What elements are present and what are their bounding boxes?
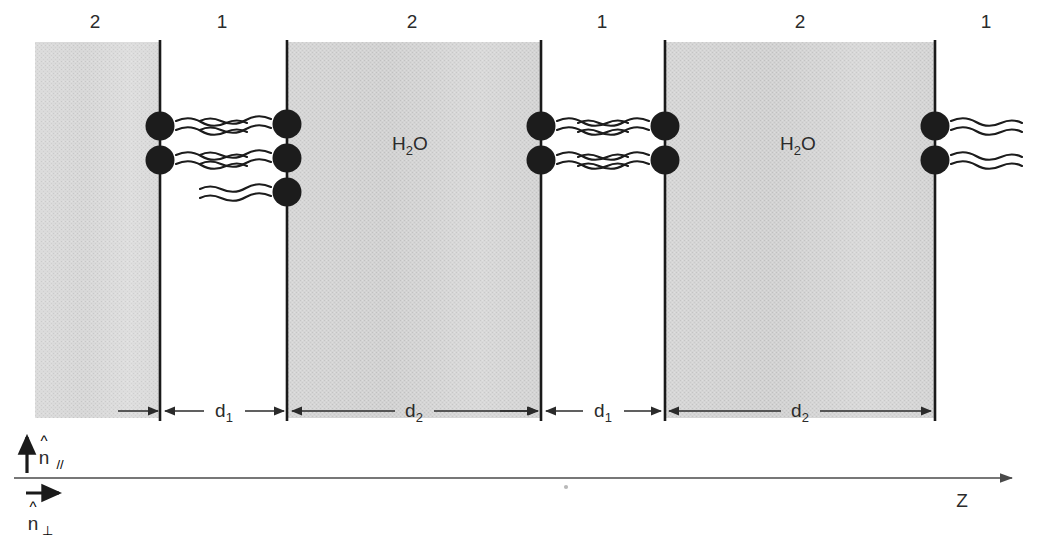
lipid-head-icon [527, 112, 556, 141]
lipid-molecule [146, 112, 248, 141]
lipid-molecule [146, 146, 248, 175]
slab-medium-2-water-second-shade [665, 42, 936, 418]
z-axis-label: Z [956, 490, 968, 511]
z-axis-group: Z [14, 478, 1012, 511]
print-speck [564, 485, 568, 489]
lipid-tail-icon [200, 184, 271, 192]
n-parallel-label: n [39, 447, 50, 468]
region-label-1-b: 1 [597, 11, 608, 32]
slab-medium-2-water-first-shade [288, 42, 541, 418]
lipid-molecule [200, 178, 302, 207]
figure-canvas: 2 1 2 1 2 1 H2O H2O d1 [0, 0, 1037, 549]
normal-vector-group: ^ n // ^ n ⊥ [26, 432, 64, 538]
slab-medium-2-left-edge-shade [35, 42, 161, 418]
lipid-head-icon [921, 146, 950, 175]
lipid-head-icon [146, 146, 175, 175]
region-label-1-a: 1 [217, 11, 228, 32]
lipid-head-icon [527, 146, 556, 175]
dim-label-d1-b: d1 [594, 400, 612, 425]
lipid-head-icon [651, 112, 680, 141]
lipid-head-icon [146, 112, 175, 141]
slab-group [35, 42, 936, 418]
lipid-tail-icon [951, 118, 1022, 126]
lipid-molecule [921, 112, 1023, 141]
lipid-tail-icon [951, 152, 1022, 160]
region-label-1-c: 1 [981, 11, 992, 32]
lipid-head-icon [921, 112, 950, 141]
lipid-head-icon [273, 178, 302, 207]
membrane-stack-figure: 2 1 2 1 2 1 H2O H2O d1 [0, 0, 1037, 549]
top-label-group: 2 1 2 1 2 1 [90, 11, 992, 32]
n-parallel-subscript: // [56, 457, 64, 472]
lipid-tail-icon [951, 127, 1022, 135]
region-label-2-c: 2 [795, 11, 806, 32]
lipid-head-icon [651, 146, 680, 175]
n-perpendicular-label: n [28, 513, 39, 534]
region-label-2-b: 2 [407, 11, 418, 32]
lipid-molecule [921, 146, 1023, 175]
dim-label-d1-a: d1 [215, 400, 233, 425]
lipid-tail-icon [951, 161, 1022, 169]
lipid-head-icon [273, 144, 302, 173]
n-perpendicular-subscript: ⊥ [42, 523, 53, 538]
lipid-head-icon [273, 110, 302, 139]
lipid-tail-icon [200, 193, 271, 201]
region-label-2-a: 2 [90, 11, 101, 32]
